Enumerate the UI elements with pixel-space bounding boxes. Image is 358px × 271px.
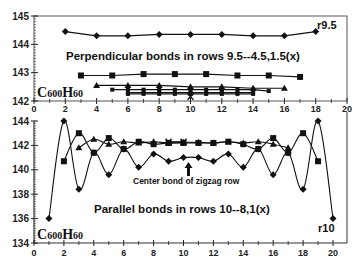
square-marker: [61, 158, 67, 164]
square-marker: [141, 71, 147, 77]
diamond-marker: [195, 154, 202, 161]
top-panel: 142143144145 02468101214161820 Perpendic…: [12, 11, 352, 115]
x-tick-label: 8: [157, 104, 162, 114]
x-tick-label: 16: [279, 104, 289, 114]
square-marker: [267, 89, 271, 93]
x-tick-label: 4: [91, 248, 96, 258]
square-marker: [110, 88, 114, 92]
x-tick-label: 6: [121, 248, 126, 258]
x-tick-label: 0: [31, 248, 36, 258]
x-tick-label: 14: [238, 248, 248, 258]
y-tick-label: 142: [12, 140, 29, 151]
bottom-title: Parallel bonds in rows 10--8,1(x): [94, 203, 270, 215]
triangle-marker: [75, 144, 82, 150]
square-marker: [266, 73, 272, 79]
square-marker: [172, 71, 178, 77]
square-marker: [106, 135, 112, 141]
square-marker: [270, 135, 276, 141]
square-marker: [300, 130, 306, 136]
x-tick-label: 12: [208, 248, 218, 258]
square-marker: [297, 74, 303, 80]
diamond-marker: [124, 32, 131, 39]
square-marker: [173, 92, 177, 96]
diamond-marker: [62, 28, 69, 35]
square-marker: [91, 150, 97, 156]
diamond-marker: [225, 150, 232, 157]
x-tick-label: 4: [94, 104, 99, 114]
square-marker: [203, 71, 209, 77]
square-marker: [234, 73, 240, 79]
diamond-marker: [180, 154, 187, 161]
figure: 142143144145 02468101214161820 Perpendic…: [0, 0, 358, 271]
top-series: [62, 28, 319, 100]
diamond-marker: [218, 31, 225, 38]
square-marker: [78, 73, 84, 79]
top-formula-label: C600H60: [37, 85, 83, 100]
series-diamond: [62, 28, 319, 39]
diamond-marker: [165, 158, 172, 165]
square-marker: [220, 92, 224, 96]
diamond-marker: [156, 31, 163, 38]
x-tick-label: 14: [248, 104, 258, 114]
square-marker: [255, 146, 261, 152]
square-marker: [109, 73, 115, 79]
square-marker: [121, 146, 127, 152]
square-marker: [142, 92, 146, 96]
y-tick-label: 142: [12, 96, 29, 107]
bottom-panel: 134136138140142144 02468101214161820 Par…: [12, 112, 347, 258]
y-tick-label: 136: [12, 213, 29, 224]
top-title: Perpendicular bonds in rows 9.5--4.5,1.5…: [66, 50, 300, 62]
y-tick-label: 138: [12, 189, 29, 200]
x-tick-label: 6: [125, 104, 130, 114]
square-marker: [285, 150, 291, 156]
diamond-marker: [281, 32, 288, 39]
square-marker: [76, 130, 82, 136]
bottom-end-label: r10: [318, 222, 335, 234]
diamond-marker: [187, 31, 194, 38]
x-tick-label: 8: [151, 248, 156, 258]
square-marker: [157, 92, 161, 96]
diamond-marker: [300, 186, 307, 193]
series-square: [78, 71, 303, 80]
y-tick-label: 143: [12, 67, 29, 78]
bottom-y-axis: 134136138140142144: [12, 116, 38, 249]
square-marker: [251, 92, 255, 96]
diamond-marker: [150, 150, 157, 157]
diamond-marker: [250, 32, 257, 39]
square-marker: [204, 92, 208, 96]
series-small-square: [126, 92, 255, 96]
square-marker: [315, 158, 321, 164]
y-tick-label: 140: [12, 164, 29, 175]
x-tick-label: 0: [31, 104, 36, 114]
square-marker: [126, 92, 130, 96]
x-tick-label: 10: [178, 248, 188, 258]
diamond-marker: [75, 186, 82, 193]
triangle-marker: [90, 136, 97, 142]
diamond-marker: [93, 32, 100, 39]
center-bond-annotation: Center bond of zigzag row: [133, 176, 240, 186]
diamond-marker: [210, 158, 217, 165]
diamond-marker: [45, 215, 52, 222]
x-tick-label: 18: [311, 104, 321, 114]
chart-canvas: 142143144145 02468101214161820 Perpendic…: [0, 0, 358, 271]
top-end-label: r9.5: [317, 19, 337, 31]
top-x-axis: 02468101214161820: [31, 98, 352, 114]
x-tick-label: 2: [61, 248, 66, 258]
y-tick-label: 144: [12, 39, 29, 50]
arrow-up-icon: [185, 162, 193, 176]
x-tick-label: 20: [328, 248, 338, 258]
x-tick-label: 16: [268, 248, 278, 258]
bottom-formula-label: C600H60: [37, 227, 83, 242]
x-tick-label: 10: [185, 104, 195, 114]
y-tick-label: 144: [12, 116, 29, 127]
square-marker: [235, 92, 239, 96]
y-tick-label: 145: [12, 11, 29, 22]
x-tick-label: 12: [217, 104, 227, 114]
x-tick-label: 18: [298, 248, 308, 258]
y-tick-label: 134: [12, 238, 29, 249]
x-tick-label: 2: [63, 104, 68, 114]
